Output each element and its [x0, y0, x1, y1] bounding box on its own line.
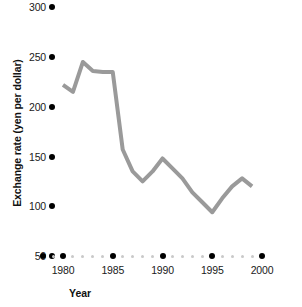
- line-chart: Exchange rate (yen per dollar) 501001502…: [0, 0, 302, 307]
- data-series-line: [63, 62, 252, 212]
- plot-area: [0, 0, 302, 307]
